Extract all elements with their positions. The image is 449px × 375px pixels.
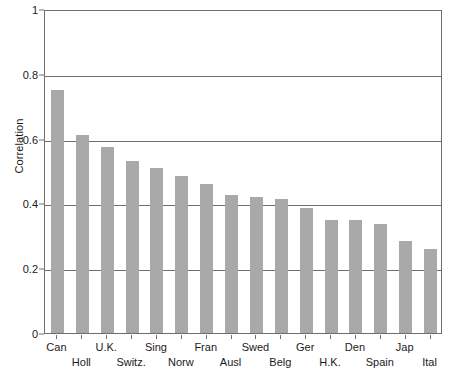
bar <box>175 176 188 333</box>
bar <box>126 161 139 333</box>
x-tick-mark <box>330 335 331 339</box>
x-tick-label: U.K. <box>95 341 116 353</box>
x-tick-mark <box>405 335 406 339</box>
x-tick-label: Jap <box>396 341 414 353</box>
x-tick-mark <box>56 335 57 339</box>
x-tick-label: Can <box>46 341 66 353</box>
bar <box>275 199 288 333</box>
y-tick-label: 1 <box>0 4 38 16</box>
correlation-bar-chart: Correlation 00.20.40.60.81 CanHollU.K.Sw… <box>0 0 449 375</box>
x-tick-label: Ital <box>422 356 437 368</box>
x-tick-label: Spain <box>366 356 394 368</box>
y-tick-label: 0.8 <box>0 69 38 81</box>
x-tick-label: Holl <box>72 356 91 368</box>
bar <box>374 224 387 333</box>
y-axis-title: Correlation <box>13 101 25 191</box>
y-tick-label: 0.4 <box>0 198 38 210</box>
x-tick-label: Fran <box>194 341 217 353</box>
gridline <box>45 76 441 77</box>
x-tick-label: Swed <box>242 341 270 353</box>
y-tick-label: 0.6 <box>0 134 38 146</box>
bar <box>101 147 114 333</box>
bar <box>150 168 163 333</box>
x-tick-label: Norw <box>168 356 194 368</box>
x-tick-mark <box>231 335 232 339</box>
x-tick-label: Switz. <box>116 356 145 368</box>
y-tick-label: 0 <box>0 328 38 340</box>
x-tick-mark <box>181 335 182 339</box>
bar <box>200 184 213 333</box>
bar <box>225 195 238 333</box>
bar <box>349 220 362 333</box>
x-tick-mark <box>156 335 157 339</box>
gridline <box>45 141 441 142</box>
x-tick-label: Sing <box>145 341 167 353</box>
x-tick-mark <box>380 335 381 339</box>
x-tick-label: Den <box>345 341 365 353</box>
x-tick-label: Belg <box>269 356 291 368</box>
x-tick-mark <box>131 335 132 339</box>
x-tick-mark <box>255 335 256 339</box>
x-tick-label: Ger <box>296 341 314 353</box>
x-tick-mark <box>355 335 356 339</box>
bar <box>51 90 64 333</box>
x-tick-mark <box>106 335 107 339</box>
x-tick-mark <box>280 335 281 339</box>
x-tick-mark <box>206 335 207 339</box>
x-tick-label: H.K. <box>319 356 340 368</box>
bar <box>399 241 412 333</box>
x-tick-mark <box>81 335 82 339</box>
bar <box>300 208 313 333</box>
bar <box>424 249 437 333</box>
plot-area <box>44 10 442 334</box>
bar <box>325 220 338 333</box>
bar <box>76 135 89 333</box>
x-tick-label: Ausl <box>220 356 241 368</box>
x-tick-mark <box>430 335 431 339</box>
bar <box>250 197 263 333</box>
y-tick-label: 0.2 <box>0 263 38 275</box>
x-tick-mark <box>305 335 306 339</box>
